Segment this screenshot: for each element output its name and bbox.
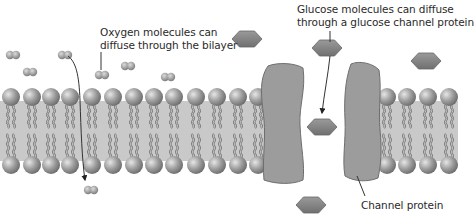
phospholipid-head-bottom [2, 156, 20, 174]
phospholipid-head-bottom [165, 156, 183, 174]
phospholipid-head-bottom [61, 156, 79, 174]
phospholipid-head-bottom [125, 156, 143, 174]
phospholipid-head-top [83, 88, 101, 106]
phospholipid-head-top [145, 88, 163, 106]
oxygen-molecule-icon [121, 62, 135, 70]
phospholipid-head-top [187, 88, 205, 106]
phospholipid-head-bottom [229, 156, 247, 174]
phospholipid-head-top [23, 88, 41, 106]
phospholipid-head-top [398, 88, 416, 106]
phospholipid-head-top [42, 88, 60, 106]
phospholipid-head-bottom [42, 156, 60, 174]
phospholipid-head-bottom [440, 156, 458, 174]
phospholipid-head-bottom [419, 156, 437, 174]
oxygen-molecule-icon [84, 186, 98, 194]
phospholipid-head-top [104, 88, 122, 106]
phospholipid-head-top [378, 88, 396, 106]
phospholipid-head-top [125, 88, 143, 106]
glucose-molecule-icon [296, 197, 326, 213]
oxygen-molecule-icon [161, 73, 175, 81]
glucose-molecule-icon [307, 119, 337, 135]
phospholipid-head-bottom [208, 156, 226, 174]
oxygen-molecule-icon [95, 71, 109, 79]
phospholipid-head-bottom [83, 156, 101, 174]
phospholipid-head-bottom [145, 156, 163, 174]
phospholipid-head-top [419, 88, 437, 106]
phospholipid-head-top [440, 88, 458, 106]
phospholipid-head-top [229, 88, 247, 106]
glucose-label-line2: through a glucose channel protein [297, 16, 474, 28]
phospholipid-head-bottom [398, 156, 416, 174]
phospholipid-head-top [2, 88, 20, 106]
glucose-diffusion-arrow [322, 56, 330, 113]
oxygen-molecule-icon [23, 68, 37, 76]
oxygen-label-line2: diffuse through the bilayer [100, 39, 237, 51]
phospholipid-head-top [61, 88, 79, 106]
glucose-label-line1: Glucose molecules can diffuse [297, 3, 454, 15]
phospholipid-head-bottom [104, 156, 122, 174]
oxygen-molecule-icon [6, 51, 20, 59]
channel-protein-left [262, 64, 304, 184]
phospholipid-head-bottom [23, 156, 41, 174]
channel-protein-right [344, 62, 381, 180]
glucose-molecule-icon [411, 53, 441, 69]
phospholipid-head-bottom [187, 156, 205, 174]
glucose-molecule-icon [312, 40, 342, 56]
phospholipid-head-top [165, 88, 183, 106]
channel-protein-label: Channel protein [361, 199, 443, 211]
oxygen-label-line1: Oxygen molecules can [100, 26, 217, 38]
phospholipid-head-top [208, 88, 226, 106]
